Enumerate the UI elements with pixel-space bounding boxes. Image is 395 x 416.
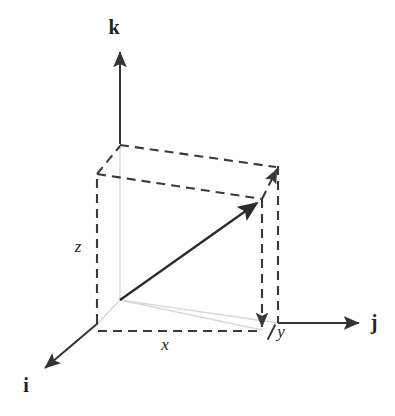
axis-label-i: i [23,374,29,396]
component-label-z: z [74,237,82,256]
faint-guide-lines [98,144,278,330]
vector-diagram-figure: k j i z x y [0,0,395,416]
coordinate-system-diagram: k j i z x y [0,0,395,416]
faint-floor-guide-front [120,300,262,330]
component-label-x: x [160,335,169,354]
axis-label-k: k [108,16,120,38]
axis-label-j: j [370,311,378,334]
faint-floor-guide-right [120,300,278,323]
axis-line-i [45,323,98,368]
box-edge-top-front [97,174,262,199]
coordinate-axes [45,52,359,368]
box-edge-top-back [120,145,276,167]
position-vector-arrow [120,203,257,300]
box-edge-top-left-receding [97,146,120,174]
component-label-y: y [275,322,285,341]
faint-origin-guide [98,300,120,323]
box-edge-top-right-receding [262,169,277,199]
y-component-tick [268,325,275,339]
dashed-box-edges [97,145,278,331]
